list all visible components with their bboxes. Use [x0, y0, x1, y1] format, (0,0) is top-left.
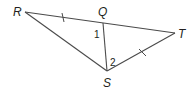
angle-label-2: 2	[110, 57, 116, 68]
label-Q: Q	[98, 5, 107, 19]
label-T: T	[178, 27, 187, 41]
label-S: S	[103, 76, 111, 90]
segment-ST	[107, 33, 175, 71]
segment-QS	[103, 23, 107, 71]
segment-RS	[25, 12, 107, 71]
label-R: R	[13, 5, 22, 19]
triangle-diagram: R Q T S 1 2	[0, 0, 192, 91]
angle-label-1: 1	[94, 29, 100, 40]
